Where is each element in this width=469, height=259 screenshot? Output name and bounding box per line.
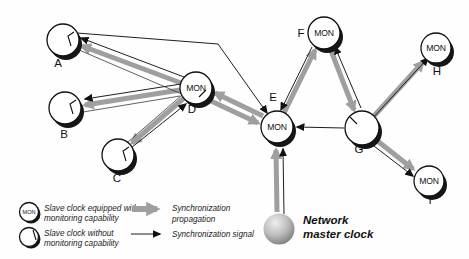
- mon-badge-f: MON: [314, 28, 333, 38]
- master-clock-label: Network master clock: [303, 214, 374, 240]
- propagation-arrow-g-h: [374, 62, 423, 116]
- label-C: C: [113, 172, 121, 184]
- signal-arrow-g-i: [370, 143, 413, 176]
- label-F: F: [297, 27, 304, 39]
- signal-arrow-g-h: [371, 58, 428, 120]
- legend-mon-text-line2: monitoring capability: [44, 214, 120, 223]
- legend-propagation-line1: Synchronization: [172, 204, 231, 213]
- node-B: [49, 92, 84, 128]
- node-A: [47, 24, 82, 60]
- master-label-line1: Network: [303, 214, 349, 226]
- legend-propagation-line2: propagation: [171, 215, 216, 224]
- signal-arrow-g-e: [297, 127, 344, 128]
- signal-line-c-d: [128, 95, 182, 142]
- propagation-arrow-d-c: [132, 98, 184, 143]
- legend-mon-badge: MON: [22, 209, 35, 215]
- propagation-arrow-f-g: [330, 48, 354, 110]
- signal-arrow-master-e: [283, 149, 284, 214]
- mon-badge-h: MON: [426, 43, 445, 53]
- legend-plain-text-line1: Slave clock without: [44, 229, 114, 238]
- label-A: A: [54, 57, 62, 69]
- node-C: [102, 139, 137, 175]
- label-I: I: [428, 194, 431, 206]
- legend-mon-clock: MON: [20, 203, 41, 224]
- master-clock-sphere: [264, 214, 295, 245]
- signal-arrow-f-e: [281, 47, 312, 110]
- master-label-line2: master clock: [303, 228, 374, 240]
- propagation-arrow-d-b: [85, 90, 180, 105]
- node-H: MON: [421, 33, 454, 67]
- label-E: E: [269, 91, 277, 103]
- propagation-arrow-d-a: [82, 46, 181, 83]
- propagation-arrow-master-e: [276, 150, 277, 212]
- legend-plain-text-line2: monitoring capability: [44, 239, 120, 248]
- signal-arrow-c-d: [131, 104, 186, 148]
- node-D: MON: [180, 72, 215, 108]
- propagation-arrow-g-i: [375, 139, 413, 169]
- legend-signal-label: Synchronization signal: [172, 230, 254, 239]
- label-B: B: [60, 128, 68, 140]
- sync-network-figure: MON MON MON MON MON: [0, 0, 469, 259]
- propagation-arrow-e-f: [284, 50, 315, 113]
- node-F: MON: [308, 17, 343, 53]
- label-H: H: [433, 65, 441, 77]
- label-G: G: [355, 143, 364, 155]
- mon-badge-d: MON: [186, 83, 205, 93]
- node-E: MON: [261, 111, 296, 147]
- diagram-svg: MON MON MON MON MON: [0, 0, 469, 259]
- legend-plain-clock: [20, 228, 41, 249]
- master-clock: [264, 214, 295, 245]
- legend: MON Slave clock equipped with monitoring…: [20, 203, 255, 249]
- legend-mon-text-line1: Slave clock equipped with: [44, 204, 139, 213]
- label-D: D: [188, 103, 196, 115]
- mon-badge-i: MON: [419, 176, 438, 186]
- mon-badge-e: MON: [267, 122, 286, 132]
